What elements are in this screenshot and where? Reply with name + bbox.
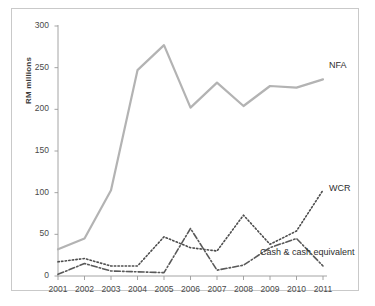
series-label-nfa: NFA <box>329 60 347 70</box>
y-axis-tick-label: 300 <box>23 20 49 30</box>
y-axis-tick-label: 200 <box>23 103 49 113</box>
y-axis-tick-label: 0 <box>23 270 49 280</box>
x-axis-tick-label: 2006 <box>176 284 206 294</box>
x-axis-tick-label: 2008 <box>229 284 259 294</box>
chart-series <box>58 45 323 274</box>
x-axis-tick-label: 2001 <box>43 284 73 294</box>
x-axis-tick-label: 2007 <box>202 284 232 294</box>
x-axis-tick-label: 2004 <box>123 284 153 294</box>
x-axis-tick-label: 2005 <box>149 284 179 294</box>
x-axis-tick-label: 2003 <box>96 284 126 294</box>
series-label-wcr: WCR <box>329 183 351 193</box>
chart-figure-frame: RM millions 050100150200250300 200120022… <box>11 8 359 291</box>
y-axis-tick-label: 150 <box>23 145 49 155</box>
x-axis-tick-label: 2010 <box>282 284 312 294</box>
series-label-cash-cash-equivalent: Cash & cash equivalent <box>260 247 355 257</box>
x-axis-tick-label: 2002 <box>70 284 100 294</box>
x-axis-tick-label: 2011 <box>308 284 338 294</box>
y-axis-tick-label: 100 <box>23 187 49 197</box>
series-line-nfa <box>58 45 323 249</box>
y-axis-tick-label: 250 <box>23 62 49 72</box>
x-axis-tick-label: 2009 <box>255 284 285 294</box>
y-axis-tick-label: 50 <box>23 228 49 238</box>
